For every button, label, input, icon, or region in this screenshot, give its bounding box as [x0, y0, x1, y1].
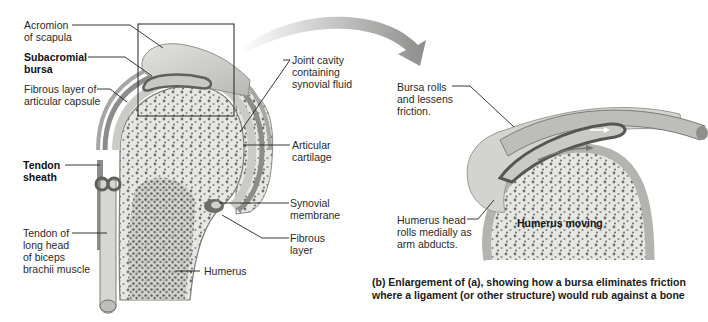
label-humerus: Humerus: [204, 265, 247, 277]
label-humerus-moving: Humerus moving: [517, 217, 603, 229]
label-tendon-biceps: Tendon of long head of biceps brachii mu…: [23, 227, 90, 275]
label-fibrous-layer-capsule: Fibrous layer of articular capsule: [24, 83, 100, 107]
label-acromion: Acromion of scapula: [24, 19, 72, 43]
label-synovial-membrane: Synovial membrane: [290, 197, 340, 221]
label-fibrous-layer: Fibrous layer: [290, 232, 325, 256]
label-joint-cavity: Joint cavity containing synovial fluid: [292, 54, 352, 90]
label-humerus-head: Humerus head rolls medially as arm abduc…: [397, 214, 472, 250]
figure-caption: (b) Enlargement of (a), showing how a bu…: [372, 276, 686, 302]
panel-b-enlargement: [467, 107, 708, 260]
label-subacromial-bursa: Subacromial bursa: [24, 51, 87, 75]
label-articular-cartilage: Articular cartilage: [292, 139, 332, 163]
shoulder-joint-illustration: [0, 0, 708, 322]
label-tendon-sheath: Tendon sheath: [23, 159, 60, 183]
label-bursa-rolls: Bursa rolls and lessens friction.: [397, 81, 453, 117]
